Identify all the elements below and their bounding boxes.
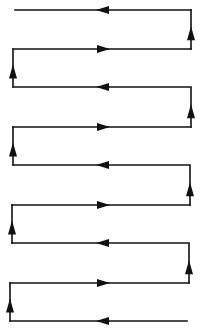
arrow-left-icon [96,161,109,169]
arrow-right-icon [97,45,110,53]
arrow-left-icon [96,83,109,91]
arrow-up-icon [187,104,195,118]
arrow-right-icon [97,201,110,209]
serpentine-path-diagram [0,0,201,336]
arrow-right-icon [97,279,110,287]
arrow-up-icon [187,26,195,40]
arrow-up-icon [6,299,14,313]
arrow-up-icon [186,182,194,196]
arrow-up-icon [8,221,16,235]
arrow-right-icon [97,123,110,131]
arrow-up-icon [185,260,193,274]
arrow-left-icon [96,317,109,325]
arrow-left-icon [96,239,109,247]
arrow-up-icon [9,143,17,157]
arrow-up-icon [9,65,17,79]
arrow-left-icon [96,6,109,14]
